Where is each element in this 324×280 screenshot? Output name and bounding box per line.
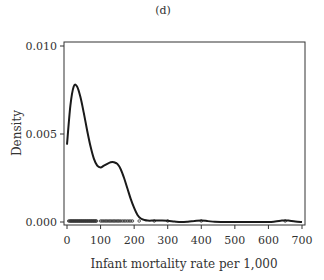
x-tick-label: 700 (292, 234, 313, 247)
x-tick-label: 400 (191, 234, 212, 247)
x-axis-title: Infant mortality rate per 1,000 (90, 257, 277, 271)
y-tick-label: 0.005 (26, 128, 58, 141)
y-tick-label: 0.010 (26, 40, 58, 53)
y-tick-label: 0.000 (26, 216, 58, 229)
plot-frame (64, 42, 305, 225)
x-axis: 0100200300400500600700 (64, 225, 313, 247)
chart-title: (d) (155, 4, 171, 17)
x-tick-label: 200 (124, 234, 145, 247)
x-tick-label: 500 (224, 234, 245, 247)
x-tick-label: 0 (64, 234, 71, 247)
x-tick-label: 300 (157, 234, 178, 247)
y-axis-title: Density (10, 110, 24, 156)
x-tick-label: 100 (90, 234, 111, 247)
rug-point (138, 220, 141, 223)
density-curve (67, 85, 302, 222)
density-chart: (d) 0.0000.0050.010 01002003004005006007… (0, 0, 324, 280)
y-axis: 0.0000.0050.010 (26, 40, 65, 229)
x-tick-label: 600 (258, 234, 279, 247)
